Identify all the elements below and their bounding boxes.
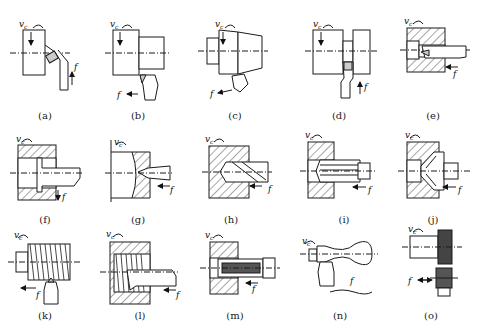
svg-text:vc: vc xyxy=(408,224,417,235)
svg-text:vc: vc xyxy=(16,134,25,145)
svg-text:f: f xyxy=(457,185,463,195)
svg-text:vc: vc xyxy=(302,236,311,247)
panel-b-turning xyxy=(105,25,170,100)
caption-h: (h) xyxy=(224,214,238,225)
panel-f-internal-grooving xyxy=(10,139,82,200)
panel-e-boring xyxy=(400,21,470,72)
panel-h-drilling xyxy=(202,139,272,198)
caption-i: (i) xyxy=(338,214,349,225)
panel-k-threading xyxy=(8,235,80,304)
svg-text:f: f xyxy=(35,290,41,300)
svg-text:vc: vc xyxy=(106,229,115,240)
svg-text:vc: vc xyxy=(19,19,28,30)
caption-d: (d) xyxy=(332,110,346,121)
svg-text:vc: vc xyxy=(114,137,123,148)
caption-g: (g) xyxy=(131,214,145,225)
caption-a: (a) xyxy=(38,110,52,121)
svg-text:f: f xyxy=(169,185,175,195)
svg-text:f: f xyxy=(73,62,79,72)
svg-text:f: f xyxy=(452,69,458,79)
svg-text:f: f xyxy=(61,192,67,202)
svg-text:f: f xyxy=(349,276,355,286)
caption-k: (k) xyxy=(38,310,52,321)
svg-text:f: f xyxy=(367,185,373,195)
caption-j: (j) xyxy=(428,214,439,225)
svg-text:f: f xyxy=(407,276,413,286)
caption-n: (n) xyxy=(333,310,347,321)
caption-l: (l) xyxy=(134,310,145,321)
panel-m-tapping xyxy=(200,235,280,294)
panel-a-facing xyxy=(10,25,72,90)
caption-m: (m) xyxy=(226,310,243,321)
panel-g-center-drilling xyxy=(105,140,172,202)
caption-f: (f) xyxy=(39,214,51,225)
caption-c: (c) xyxy=(228,110,241,121)
machining-operations-diagram: vcf vcf vcf vcf vcf vcf vcf vcf vcf vcf … xyxy=(0,0,483,333)
panel-l-internal-threading xyxy=(100,234,178,304)
svg-text:vc: vc xyxy=(110,19,119,30)
svg-text:vc: vc xyxy=(14,230,23,241)
svg-text:f: f xyxy=(363,82,369,92)
svg-text:f: f xyxy=(267,184,273,194)
svg-text:f: f xyxy=(116,90,122,100)
svg-text:vc: vc xyxy=(215,19,224,30)
panel-c-taper xyxy=(198,25,268,93)
svg-text:f: f xyxy=(251,284,257,294)
svg-text:vc: vc xyxy=(313,19,322,30)
svg-text:vc: vc xyxy=(404,16,413,27)
svg-text:vc: vc xyxy=(205,134,214,145)
svg-text:vc: vc xyxy=(305,130,314,141)
caption-o: (o) xyxy=(424,310,438,321)
caption-e: (e) xyxy=(426,110,440,121)
svg-text:vc: vc xyxy=(205,230,214,241)
svg-text:f: f xyxy=(175,290,181,300)
svg-text:f: f xyxy=(209,89,215,99)
panel-i-reaming xyxy=(300,135,376,198)
svg-text:vc: vc xyxy=(405,130,414,141)
caption-b: (b) xyxy=(131,110,145,121)
panel-n-form-turning xyxy=(300,241,378,294)
